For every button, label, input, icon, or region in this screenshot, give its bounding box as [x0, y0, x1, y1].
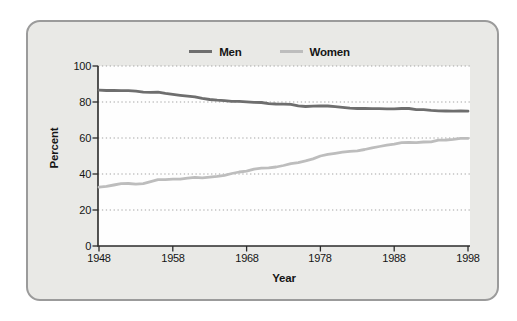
legend-item-women: Women [280, 46, 350, 58]
x-tick-label: 1968 [227, 252, 267, 264]
y-axis-title: Percent [47, 118, 61, 178]
legend-label-men: Men [219, 46, 241, 58]
x-tick-label: 1998 [448, 252, 488, 264]
y-tick-label: 60 [60, 132, 91, 144]
legend-item-men: Men [189, 46, 241, 58]
x-tick-label: 1948 [79, 252, 119, 264]
y-tick-label: 80 [60, 96, 91, 108]
y-tick-label: 40 [60, 168, 91, 180]
y-tick-label: 20 [60, 204, 91, 216]
y-tick-label: 0 [60, 240, 91, 252]
chart-legend: Men Women [26, 44, 499, 59]
figure-page: Men Women Percent Year 100 80 60 40 20 0… [0, 0, 517, 321]
men-line-swatch [189, 50, 212, 53]
x-tick-label: 1978 [300, 252, 340, 264]
x-axis-title: Year [254, 271, 314, 285]
x-tick-label: 1988 [374, 252, 414, 264]
y-tick-label: 100 [60, 60, 91, 72]
women-line-swatch [280, 50, 303, 53]
plot-area [98, 66, 470, 246]
legend-label-women: Women [310, 46, 350, 58]
x-tick-label: 1958 [153, 252, 193, 264]
